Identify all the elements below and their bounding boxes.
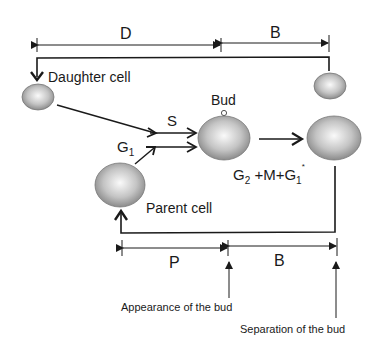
daughter-cell	[22, 84, 54, 110]
label-g2-m-g1: G2 +M+G1*	[233, 162, 305, 186]
budding-cycle-diagram: D B Daughter cell S G1 Bud G2 +M+G1* Par…	[0, 0, 380, 349]
label-g1: G1	[117, 138, 135, 158]
mature-bud-cell	[307, 116, 361, 160]
label-b-bottom: B	[274, 252, 285, 269]
label-p: P	[169, 254, 180, 271]
label-s: S	[167, 112, 177, 129]
bud-nub	[221, 110, 226, 115]
label-separation-of-bud: Separation of the bud	[240, 323, 345, 335]
label-b-top: B	[270, 24, 281, 41]
label-bud: Bud	[211, 92, 236, 108]
budding-cell	[198, 116, 250, 160]
label-daughter-cell: Daughter cell	[48, 69, 131, 85]
separated-bud-cell	[314, 73, 346, 99]
label-parent-cell: Parent cell	[146, 200, 212, 216]
parent-cell	[95, 163, 145, 207]
label-appearance-of-bud: Appearance of the bud	[121, 301, 232, 313]
label-d: D	[120, 25, 132, 42]
top-dimension-bar: D B	[37, 24, 329, 52]
